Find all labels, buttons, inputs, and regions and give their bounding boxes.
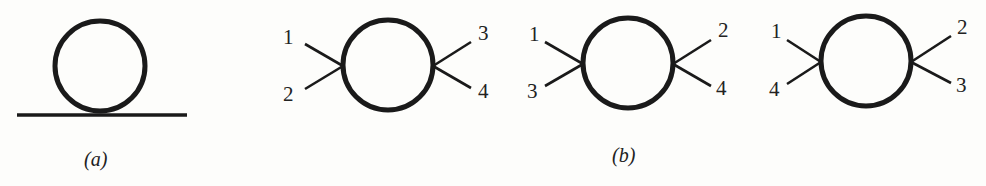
label-top-left: 1 (529, 22, 540, 46)
label-top-left: 1 (771, 19, 782, 43)
caption-a: (a) (84, 148, 108, 171)
leg-3 (545, 64, 583, 86)
leg-4 (433, 66, 471, 88)
leg-3 (433, 42, 471, 66)
panel-a-tadpole: (a) (17, 21, 187, 171)
loop-circle (583, 18, 673, 108)
loop-circle (343, 20, 433, 110)
label-top-left: 1 (283, 25, 294, 49)
leg-1 (305, 44, 343, 66)
leg-1 (545, 42, 583, 64)
leg-2 (305, 66, 343, 89)
leg-1 (787, 40, 821, 62)
leg-2 (911, 36, 951, 62)
label-bottom-left: 4 (769, 77, 780, 101)
label-top-right: 2 (957, 15, 968, 39)
leg-4 (673, 64, 711, 86)
label-top-right: 3 (478, 21, 489, 45)
panel-b-bubble-1: 1 2 3 4 (283, 20, 489, 110)
leg-4 (787, 62, 821, 84)
leg-2 (673, 40, 711, 64)
label-top-right: 2 (718, 18, 729, 42)
label-bottom-left: 2 (283, 82, 294, 106)
leg-3 (911, 62, 951, 83)
label-bottom-right: 4 (716, 76, 727, 100)
caption-b: (b) (612, 144, 636, 167)
loop-circle (821, 16, 911, 106)
label-bottom-left: 3 (527, 79, 538, 103)
label-bottom-right: 3 (956, 73, 967, 97)
panel-b-bubble-2: 1 3 2 4 (b) (527, 18, 729, 167)
panel-b-bubble-3: 1 4 2 3 (769, 15, 968, 106)
label-bottom-right: 4 (478, 79, 489, 103)
loop-circle (55, 21, 145, 111)
feynman-diagrams-figure: (a) 1 2 3 4 1 3 2 4 (b) 1 4 2 3 (0, 0, 986, 186)
